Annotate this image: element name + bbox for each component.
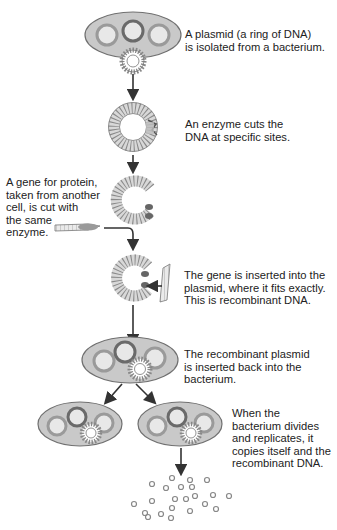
step-reinsert-label: The recombinant plasmid is inserted back… bbox=[184, 348, 310, 386]
recombinant-dna-diagram: A plasmid (a ring of DNA) is isolated fr… bbox=[0, 0, 337, 530]
bacterium-1 bbox=[85, 12, 181, 72]
step-replicate-label: When the bacterium divides and replicate… bbox=[232, 407, 331, 470]
bacterium-daughter-left bbox=[38, 402, 122, 446]
plasmid-with-gene bbox=[117, 260, 170, 302]
step-isolate-label: A plasmid (a ring of DNA) is isolated fr… bbox=[185, 28, 325, 53]
bacterium-daughter-right bbox=[138, 402, 222, 446]
plasmid-cut bbox=[109, 103, 158, 152]
step-insert-label: The gene is inserted into the plasmid, w… bbox=[184, 269, 326, 307]
plasmid-opened bbox=[116, 181, 153, 219]
step-gene-label: A gene for protein, taken from another c… bbox=[6, 176, 100, 239]
bacterium-recombinant bbox=[82, 337, 178, 383]
step-cut-label: An enzyme cuts the DNA at specific sites… bbox=[185, 118, 290, 143]
bacteria-colony bbox=[132, 476, 232, 521]
